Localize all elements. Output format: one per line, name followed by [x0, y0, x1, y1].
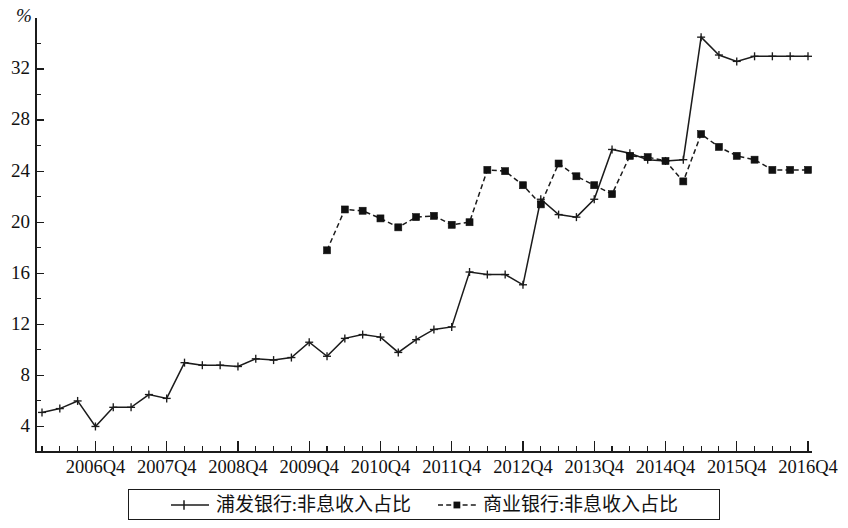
data-point-marker-plus-icon [733, 57, 741, 65]
data-point-marker-square-icon [769, 166, 776, 173]
data-point-marker-plus-icon [216, 361, 224, 369]
x-tick-label: 2008Q4 [208, 457, 268, 477]
data-point-marker-square-icon [787, 166, 794, 173]
data-point-marker-plus-icon [359, 331, 367, 339]
chart-container: 48121620242832 2006Q42007Q42008Q42009Q42… [0, 0, 848, 528]
data-point-marker-square-icon [466, 219, 473, 226]
legend-swatch-dashed-square-icon [437, 498, 477, 512]
data-point-marker-plus-icon [163, 394, 171, 402]
chart-legend: 浦发银行:非息收入占比 商业银行:非息收入占比 [128, 489, 720, 520]
data-point-marker-square-icon [502, 168, 509, 175]
data-point-marker-square-icon [626, 152, 633, 159]
data-point-marker-plus-icon [483, 271, 491, 279]
data-point-marker-plus-icon [804, 52, 812, 60]
data-point-marker-square-icon [359, 207, 366, 214]
data-point-marker-square-icon [715, 143, 722, 150]
data-point-marker-square-icon [662, 157, 669, 164]
data-point-marker-plus-icon [519, 281, 527, 289]
data-point-marker-plus-icon [181, 359, 189, 367]
data-point-marker-plus-icon [252, 355, 260, 363]
series-spdb [38, 33, 812, 430]
data-point-marker-plus-icon [198, 361, 206, 369]
data-point-marker-plus-icon [448, 323, 456, 331]
data-point-marker-square-icon [448, 221, 455, 228]
chart-axes [36, 18, 812, 452]
data-point-marker-square-icon [805, 166, 812, 173]
data-point-marker-square-icon [341, 206, 348, 213]
data-point-marker-square-icon [733, 152, 740, 159]
data-point-marker-plus-icon [56, 405, 64, 413]
data-point-marker-plus-icon [234, 362, 242, 370]
data-point-marker-square-icon [591, 182, 598, 189]
y-axis-ticks [36, 44, 44, 427]
data-point-marker-square-icon [698, 131, 705, 138]
data-point-marker-plus-icon [501, 271, 509, 279]
y-tick-label: 24 [11, 160, 31, 181]
y-tick-label: 16 [11, 262, 30, 283]
x-tick-label: 2011Q4 [422, 457, 481, 477]
y-tick-label: 20 [11, 211, 30, 232]
data-point-marker-square-icon [680, 178, 687, 185]
data-point-marker-plus-icon [430, 325, 438, 333]
chart-series-group [38, 33, 812, 430]
legend-swatch-solid-plus-icon [170, 498, 210, 512]
x-tick-label: 2010Q4 [351, 457, 411, 477]
y-axis-unit: % [16, 5, 32, 26]
legend-label-spdb: 浦发银行:非息收入占比 [216, 495, 411, 514]
data-point-marker-plus-icon [751, 52, 759, 60]
data-point-marker-square-icon [519, 182, 526, 189]
y-axis-tick-labels: 48121620242832 [11, 57, 31, 435]
data-point-marker-plus-icon [768, 52, 776, 60]
legend-item-spdb: 浦发银行:非息收入占比 [170, 495, 411, 514]
data-point-marker-square-icon [555, 160, 562, 167]
data-point-marker-square-icon [377, 215, 384, 222]
x-tick-label: 2015Q4 [707, 457, 767, 477]
y-axis-unit-label: % [16, 5, 32, 26]
data-point-marker-plus-icon [786, 52, 794, 60]
data-point-marker-plus-icon [270, 356, 278, 364]
x-tick-label: 2007Q4 [137, 457, 197, 477]
line-chart-plot: 48121620242832 2006Q42007Q42008Q42009Q42… [0, 0, 848, 528]
x-axis-tick-labels: 2006Q42007Q42008Q42009Q42010Q42011Q42012… [66, 457, 838, 477]
data-point-marker-plus-icon [608, 145, 616, 153]
series-commercial-banks [324, 131, 812, 254]
x-tick-label: 2012Q4 [493, 457, 553, 477]
x-tick-label: 2009Q4 [279, 457, 339, 477]
data-point-marker-square-icon [751, 156, 758, 163]
data-point-marker-square-icon [413, 214, 420, 221]
x-tick-label: 2013Q4 [564, 457, 624, 477]
x-tick-label: 2016Q4 [778, 457, 838, 477]
legend-item-commercial-banks: 商业银行:非息收入占比 [437, 495, 678, 514]
data-point-marker-square-icon [484, 166, 491, 173]
data-point-marker-plus-icon [466, 268, 474, 276]
data-point-marker-square-icon [324, 247, 331, 254]
data-point-marker-square-icon [644, 154, 651, 161]
data-point-marker-square-icon [537, 201, 544, 208]
legend-label-commercial-banks: 商业银行:非息收入占比 [483, 495, 678, 514]
y-tick-label: 28 [11, 108, 30, 129]
data-point-marker-plus-icon [679, 156, 687, 164]
data-point-marker-plus-icon [38, 408, 46, 416]
x-tick-label: 2014Q4 [636, 457, 696, 477]
data-point-marker-square-icon [430, 212, 437, 219]
x-tick-label: 2006Q4 [66, 457, 126, 477]
data-point-marker-square-icon [609, 191, 616, 198]
y-tick-label: 32 [11, 57, 30, 78]
y-tick-label: 4 [21, 415, 31, 436]
data-point-marker-square-icon [573, 173, 580, 180]
data-point-marker-square-icon [395, 224, 402, 231]
y-tick-label: 12 [11, 313, 30, 334]
y-tick-label: 8 [21, 364, 31, 385]
x-axis-ticks [42, 441, 808, 452]
